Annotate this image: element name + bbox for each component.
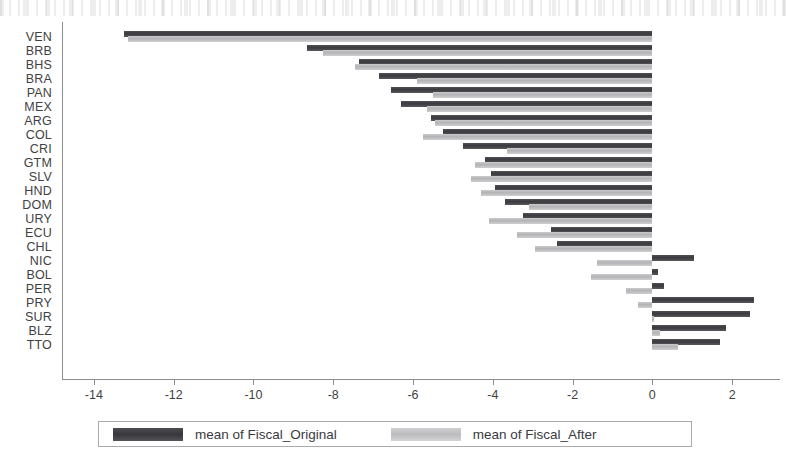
x-tick-0 bbox=[652, 379, 653, 385]
y-axis-label-cri: CRI bbox=[30, 143, 52, 155]
legend-entry-fiscal-after: mean of Fiscal_After bbox=[391, 422, 597, 446]
bar-blz-after bbox=[652, 330, 660, 336]
x-tick-neg6 bbox=[413, 379, 414, 385]
x-tick-label-neg4: -4 bbox=[487, 388, 498, 402]
x-tick-neg10 bbox=[253, 379, 254, 385]
plot-region: -14-12-10-8-6-4-202 bbox=[62, 22, 780, 380]
x-axis-line bbox=[62, 379, 780, 380]
legend-entry-fiscal-original: mean of Fiscal_Original bbox=[113, 422, 337, 446]
bar-tto-after bbox=[652, 344, 678, 350]
y-axis-label-ecu: ECU bbox=[25, 227, 52, 239]
y-axis-label-blz: BLZ bbox=[28, 325, 52, 337]
y-axis-label-col: COL bbox=[26, 129, 52, 141]
bar-chl-after bbox=[535, 246, 653, 252]
x-tick-label-neg10: -10 bbox=[244, 388, 262, 402]
bar-bra-after bbox=[417, 78, 652, 84]
x-tick-label-0: 0 bbox=[649, 388, 656, 402]
x-tick-neg14 bbox=[94, 379, 95, 385]
y-axis-label-ven: VEN bbox=[26, 31, 52, 43]
y-axis-line bbox=[62, 22, 63, 380]
y-axis-label-slv: SLV bbox=[29, 171, 52, 183]
bar-sur-original bbox=[652, 311, 750, 317]
legend-swatch-orig bbox=[113, 428, 183, 441]
bar-nic-after bbox=[597, 260, 653, 266]
bar-bhs-after bbox=[355, 64, 652, 70]
x-tick-2 bbox=[732, 379, 733, 385]
bar-cri-after bbox=[507, 148, 653, 154]
x-tick-neg4 bbox=[493, 379, 494, 385]
chart-canvas: VENBRBBHSBRAPANMEXARGCOLCRIGTMSLVHNDDOMU… bbox=[0, 0, 786, 410]
x-tick-label-neg8: -8 bbox=[328, 388, 339, 402]
bar-col-after bbox=[423, 134, 652, 140]
bar-dom-after bbox=[529, 204, 653, 210]
bar-arg-after bbox=[435, 120, 652, 126]
bar-per-after bbox=[626, 288, 652, 294]
bar-bol-original bbox=[652, 269, 658, 275]
y-axis-label-hnd: HND bbox=[24, 185, 52, 197]
x-tick-neg8 bbox=[333, 379, 334, 385]
y-axis-label-nic: NIC bbox=[30, 255, 52, 267]
bar-nic-original bbox=[652, 255, 694, 261]
bar-hnd-after bbox=[481, 190, 653, 196]
y-axis-label-gtm: GTM bbox=[24, 157, 52, 169]
y-axis-label-bhs: BHS bbox=[26, 59, 52, 71]
bar-ven-after bbox=[128, 36, 653, 42]
x-tick-neg12 bbox=[174, 379, 175, 385]
y-axis-label-bra: BRA bbox=[26, 73, 52, 85]
bar-brb-after bbox=[323, 50, 652, 56]
y-axis-label-chl: CHL bbox=[26, 241, 52, 253]
legend-label-fiscal-original: mean of Fiscal_Original bbox=[195, 427, 337, 442]
x-tick-label-2: 2 bbox=[729, 388, 736, 402]
y-axis-label-mex: MEX bbox=[24, 101, 52, 113]
bar-sur-after bbox=[652, 316, 654, 322]
bar-blz-original bbox=[652, 325, 726, 331]
y-axis-label-brb: BRB bbox=[26, 45, 52, 57]
bar-ury-after bbox=[489, 218, 653, 224]
bar-mex-after bbox=[427, 106, 652, 112]
bar-ecu-after bbox=[517, 232, 653, 238]
chart-legend: mean of Fiscal_Originalmean of Fiscal_Af… bbox=[98, 421, 692, 447]
bar-slv-after bbox=[471, 176, 652, 182]
legend-swatch-after bbox=[391, 428, 461, 441]
y-axis-label-sur: SUR bbox=[25, 311, 52, 323]
bar-pry-after bbox=[638, 302, 652, 308]
x-tick-neg2 bbox=[573, 379, 574, 385]
y-axis-label-arg: ARG bbox=[24, 115, 52, 127]
y-axis-label-dom: DOM bbox=[22, 199, 52, 211]
y-axis-label-bol: BOL bbox=[26, 269, 52, 281]
bar-bol-after bbox=[591, 274, 653, 280]
x-tick-label-neg14: -14 bbox=[85, 388, 103, 402]
bar-pry-original bbox=[652, 297, 754, 303]
y-axis-label-per: PER bbox=[26, 283, 52, 295]
y-axis-label-ury: URY bbox=[25, 213, 52, 225]
bar-per-original bbox=[652, 283, 664, 289]
y-axis-label-pry: PRY bbox=[26, 297, 52, 309]
x-tick-label-neg12: -12 bbox=[165, 388, 183, 402]
x-tick-label-neg6: -6 bbox=[407, 388, 418, 402]
x-tick-label-neg2: -2 bbox=[567, 388, 578, 402]
legend-label-fiscal-after: mean of Fiscal_After bbox=[473, 427, 597, 442]
y-axis-label-pan: PAN bbox=[27, 87, 52, 99]
bar-gtm-after bbox=[475, 162, 653, 168]
y-axis-category-labels: VENBRBBHSBRAPANMEXARGCOLCRIGTMSLVHNDDOMU… bbox=[0, 22, 58, 372]
y-axis-label-tto: TTO bbox=[27, 339, 52, 351]
bar-pan-after bbox=[433, 92, 652, 98]
